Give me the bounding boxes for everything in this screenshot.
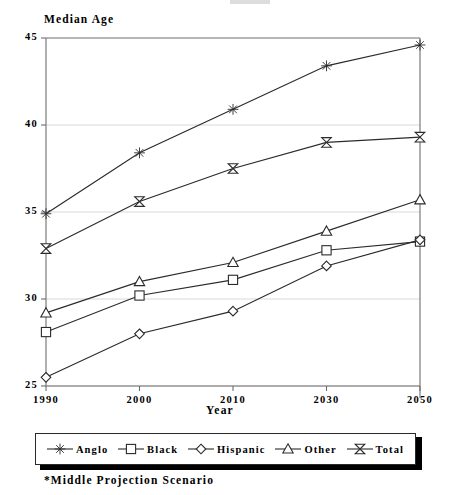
chart-page: Median Age 4540353025 199020002010203020…	[0, 0, 454, 495]
line-chart-svg	[0, 0, 454, 400]
series-black	[41, 237, 424, 337]
legend-label: Hispanic	[217, 444, 265, 455]
legend-item-hispanic[interactable]: Hispanic	[188, 441, 265, 457]
chart-legend: AngloBlackHispanicOtherTotal	[35, 433, 416, 465]
asterisk-marker	[47, 441, 73, 457]
square-marker	[118, 441, 144, 457]
y-tick-label: 30	[12, 292, 38, 303]
triangle-marker	[275, 441, 301, 457]
bowtie-marker	[347, 441, 373, 457]
chart-footnote: *Middle Projection Scenario	[44, 474, 214, 486]
x-axis-title: Year	[0, 404, 440, 416]
y-tick-label: 45	[12, 31, 38, 42]
plot-area	[0, 0, 454, 400]
legend-label: Black	[147, 444, 178, 455]
legend-label: Anglo	[76, 444, 108, 455]
legend-item-other[interactable]: Other	[275, 441, 336, 457]
series-anglo	[41, 40, 426, 220]
legend-label: Total	[376, 444, 404, 455]
legend-item-total[interactable]: Total	[347, 441, 404, 457]
legend-label: Other	[304, 444, 336, 455]
legend-item-black[interactable]: Black	[118, 441, 178, 457]
y-tick-label: 40	[12, 118, 38, 129]
y-tick-label: 25	[12, 379, 38, 390]
y-tick-label: 35	[12, 205, 38, 216]
series-total	[41, 132, 425, 253]
diamond-marker	[188, 441, 214, 457]
legend-item-anglo[interactable]: Anglo	[47, 441, 108, 457]
